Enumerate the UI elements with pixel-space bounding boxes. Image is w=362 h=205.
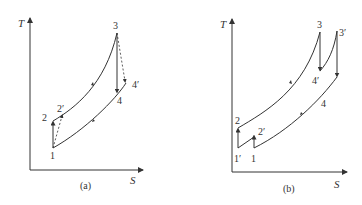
- point-label: 3: [317, 19, 322, 30]
- ts-diagram: T S (a) 1 2 2′ 3 4 4′ T S (b): [0, 0, 362, 205]
- point-label: 2: [42, 112, 47, 123]
- point-label: 1: [251, 153, 256, 164]
- point-label: 3′: [339, 27, 346, 38]
- point-label: 2: [235, 115, 240, 126]
- point-label: 4: [117, 95, 122, 106]
- x-axis-label: S: [334, 178, 340, 190]
- y-axis-label: T: [18, 17, 25, 29]
- point-label: 4′: [312, 75, 319, 86]
- y-axis-label: T: [220, 18, 227, 30]
- point-label: 4: [321, 98, 326, 109]
- point-label: 3: [113, 20, 118, 31]
- point-label: 1′: [234, 153, 241, 164]
- x-axis-label: S: [130, 174, 136, 186]
- point-label: 1: [50, 150, 55, 161]
- point-label: 4′: [132, 79, 139, 90]
- point-label: 2′: [57, 103, 64, 114]
- panel-a: T S (a) 1 2 2′ 3 4 4′: [18, 17, 143, 192]
- caption: (b): [283, 183, 295, 195]
- point-label: 2′: [258, 126, 265, 137]
- caption: (a): [80, 180, 91, 192]
- panel-b: T S (b) 1′ 1 2 2′ 3 3′ 4′ 4: [220, 18, 347, 195]
